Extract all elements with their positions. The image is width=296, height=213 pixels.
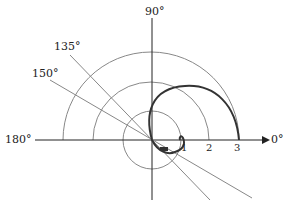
tick-1: 1: [181, 143, 187, 153]
label-180: 180°: [5, 134, 32, 145]
tick-2: 2: [206, 143, 212, 153]
label-90: 90°: [145, 6, 165, 17]
tick-3: 3: [234, 143, 240, 153]
arc-r3: [63, 52, 239, 140]
label-135: 135°: [54, 41, 81, 52]
label-150: 150°: [32, 68, 59, 79]
arrow-icon: [262, 136, 270, 144]
polar-diagram: [0, 0, 296, 213]
ray-135: [70, 55, 210, 200]
label-0: 0°: [271, 134, 284, 145]
